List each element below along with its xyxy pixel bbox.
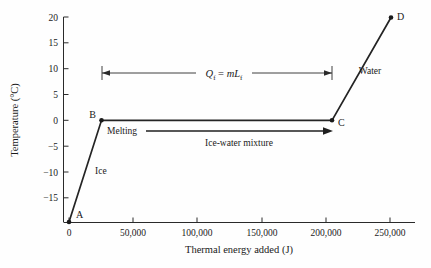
- latent-heat-formula: Qf = mLf: [206, 68, 244, 82]
- y-tick-label: −10: [43, 168, 58, 178]
- heating-curve-figure: 20 15 10 5 0 −5 −10 −15 0 50,000 100,000…: [0, 0, 431, 268]
- ice-water-mixture-label: Ice-water mixture: [205, 138, 273, 148]
- formula-equals: =: [215, 68, 226, 79]
- y-tick-label: 5: [53, 90, 58, 100]
- x-tick-label: 0: [67, 228, 72, 238]
- x-tick-label: 50,000: [120, 228, 146, 238]
- data-point-b: [99, 118, 104, 123]
- y-tick-label: 20: [49, 13, 59, 23]
- y-axis-title: Temperature (°C): [9, 83, 21, 157]
- x-axis: [64, 218, 416, 223]
- right-arrowhead-icon: [324, 70, 332, 75]
- x-tick-label: 250,000: [375, 228, 406, 238]
- y-tick-label: 0: [53, 116, 58, 126]
- formula-l-sub: f: [240, 74, 243, 82]
- point-label-c: C: [338, 117, 345, 128]
- point-label-a: A: [76, 209, 84, 220]
- water-segment-label: Water: [359, 66, 382, 76]
- point-label-d: D: [397, 11, 404, 22]
- point-label-b: B: [89, 109, 96, 120]
- ice-segment-label: Ice: [95, 166, 107, 176]
- y-tick-labels: 20 15 10 5 0 −5 −10 −15: [43, 13, 58, 204]
- data-point-a: [67, 220, 72, 225]
- x-tick-label: 150,000: [247, 228, 278, 238]
- x-tick-label: 100,000: [182, 228, 213, 238]
- data-point-c: [330, 118, 335, 123]
- melting-arrowhead-icon: [323, 127, 333, 134]
- y-tick-label: −5: [48, 142, 58, 152]
- x-tick-labels: 0 50,000 100,000 150,000 200,000 250,000: [67, 228, 406, 238]
- y-tick-label: −15: [43, 193, 58, 203]
- x-axis-title: Thermal energy added (J): [185, 244, 293, 256]
- melting-label: Melting: [107, 126, 137, 136]
- data-point-d: [389, 15, 394, 20]
- melting-arrow: [146, 127, 333, 134]
- y-tick-label: 10: [49, 64, 59, 74]
- chart-canvas: 20 15 10 5 0 −5 −10 −15 0 50,000 100,000…: [0, 0, 431, 268]
- y-tick-label: 15: [49, 38, 59, 48]
- left-arrowhead-icon: [102, 70, 110, 75]
- x-tick-label: 200,000: [311, 228, 342, 238]
- y-axis: [64, 17, 69, 222]
